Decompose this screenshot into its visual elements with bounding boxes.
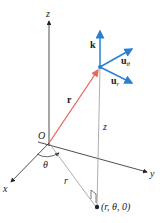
projection-point-label: (r, θ, 0) bbox=[101, 201, 131, 213]
radial-line bbox=[49, 143, 96, 207]
height-label: z bbox=[102, 121, 107, 132]
projection-point bbox=[95, 205, 99, 209]
y-axis bbox=[38, 142, 147, 172]
y-axis-label: y bbox=[149, 168, 155, 179]
theta-label: θ bbox=[43, 159, 48, 170]
height-line bbox=[97, 67, 100, 207]
u-theta-label: uθ bbox=[121, 55, 131, 68]
origin-label: O bbox=[38, 130, 45, 141]
k-vector-label: k bbox=[90, 39, 96, 50]
radial-distance-label: r bbox=[64, 175, 68, 186]
x-axis-label: x bbox=[2, 183, 8, 194]
position-vector-label: r bbox=[67, 94, 72, 105]
cylindrical-coordinates-diagram: z y x O θ r z (r, θ, 0) r k uθ ur bbox=[0, 0, 166, 223]
position-vector bbox=[49, 70, 98, 143]
theta-arc bbox=[37, 153, 59, 157]
z-axis-label: z bbox=[45, 8, 50, 19]
